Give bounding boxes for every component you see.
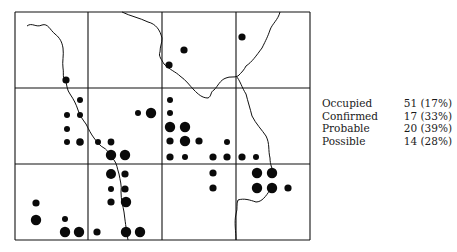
legend-label: Probable (322, 122, 370, 135)
legend-value: 17 (33%) (404, 110, 452, 123)
legend-row-confirmed: Confirmed 17 (33%) (322, 110, 452, 123)
occurrence-dot (106, 169, 116, 179)
occurrence-dot (62, 76, 69, 83)
occurrence-dot (180, 136, 190, 146)
occurrence-dot (253, 154, 259, 160)
occurrence-dot (252, 183, 262, 193)
occurrence-dot (267, 183, 277, 193)
occurrence-dot (165, 61, 172, 68)
occurrence-dot (238, 153, 245, 160)
occurrence-dot (146, 108, 156, 118)
occurrence-dot (165, 122, 175, 132)
occurrence-dot (62, 216, 68, 222)
occurrence-dot (120, 150, 130, 160)
occurrence-dot (108, 139, 115, 146)
occurrence-dot (31, 215, 41, 225)
occurrence-dot (32, 199, 39, 206)
occurrence-dot (77, 97, 83, 103)
occurrence-dot (77, 112, 83, 118)
river-path (27, 25, 128, 240)
legend-row-possible: Possible 14 (28%) (322, 135, 452, 148)
occurrence-dot (195, 137, 202, 144)
occurrence-dot (121, 227, 131, 237)
occurrence-dot (182, 154, 188, 160)
occurrence-dot (166, 137, 173, 144)
occurrence-dot (121, 197, 131, 207)
occurrence-dot (107, 198, 114, 205)
occurrence-dot (284, 184, 291, 191)
occurrence-dot (167, 110, 173, 116)
occurrence-dot (224, 139, 230, 145)
occurrence-dot (93, 228, 100, 235)
occurrence-dot (180, 46, 187, 53)
occurrence-dot (252, 168, 262, 178)
occurrence-dot (267, 168, 277, 178)
legend: Occupied 51 (17%) Confirmed 17 (33%) Pro… (322, 97, 452, 147)
grid-lines (15, 12, 310, 240)
legend-value: 20 (39%) (404, 122, 452, 135)
occurrence-dot (223, 153, 230, 160)
legend-row-probable: Probable 20 (39%) (322, 122, 452, 135)
occurrence-dot (238, 33, 245, 40)
river-path (236, 76, 276, 176)
occurrence-dot (209, 184, 216, 191)
occurrence-dots (31, 33, 292, 237)
occurrence-dot (64, 126, 70, 132)
occurrence-dot (121, 170, 128, 177)
occurrence-dot (180, 122, 190, 132)
occurrence-dot (166, 153, 173, 160)
occurrence-dot (121, 185, 128, 192)
occurrence-dot (106, 150, 116, 160)
occurrence-dot (135, 110, 141, 116)
occurrence-dot (108, 186, 114, 192)
occurrence-dot (74, 227, 84, 237)
legend-value: 51 (17%) (404, 97, 452, 110)
river-path (246, 12, 280, 66)
occurrence-dot (135, 227, 145, 237)
legend-label: Occupied (322, 97, 372, 110)
occurrence-dot (167, 97, 173, 103)
legend-value: 14 (28%) (404, 135, 452, 148)
legend-label: Confirmed (322, 110, 378, 123)
occurrence-dot (60, 227, 70, 237)
occurrence-dot (76, 138, 84, 146)
river-lines (27, 12, 280, 240)
legend-label: Possible (322, 135, 365, 148)
legend-row-occupied: Occupied 51 (17%) (322, 97, 452, 110)
occurrence-dot (64, 112, 70, 118)
river-path (122, 12, 246, 98)
occurrence-dot (209, 153, 216, 160)
river-path (235, 190, 270, 240)
occurrence-dot (64, 139, 70, 145)
occurrence-dot (95, 139, 101, 145)
occurrence-dot (209, 169, 216, 176)
